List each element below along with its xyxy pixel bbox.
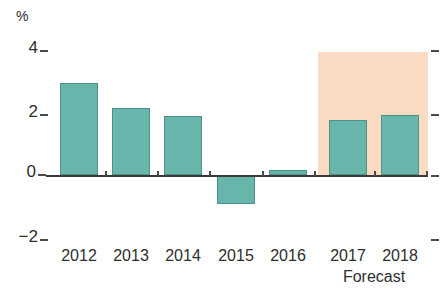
x-axis-label-2013: 2013 — [108, 247, 154, 265]
x-axis-label-2015: 2015 — [213, 247, 259, 265]
y-axis-tick-minus2 — [40, 239, 48, 241]
y-axis-label-0: 0 — [18, 162, 36, 182]
y-axis-tick-2 — [40, 114, 48, 116]
bar-2012 — [60, 83, 98, 175]
x-axis-label-2014: 2014 — [160, 247, 206, 265]
x-axis-label-2016: 2016 — [265, 247, 311, 265]
y-axis-tick-right-2 — [431, 114, 439, 116]
bar-2017 — [329, 120, 367, 175]
y-axis-tick-0 — [38, 174, 46, 176]
bar-2014 — [164, 116, 202, 175]
x-axis-tick — [262, 171, 264, 176]
x-axis-tick — [209, 171, 211, 176]
x-axis-tick — [314, 171, 316, 176]
x-axis-label-2018: 2018 — [377, 247, 423, 265]
y-axis-unit-label: % — [16, 8, 28, 24]
y-axis-tick-right-0 — [431, 175, 439, 177]
plot-area: % 4 2 0 −2 2012 2013 2014 2015 2016 2017… — [0, 0, 442, 289]
bar-2015 — [217, 175, 255, 204]
y-axis-label-4: 4 — [20, 38, 38, 58]
forecast-caption: Forecast — [333, 268, 415, 286]
x-axis-label-2012: 2012 — [56, 247, 102, 265]
x-axis-tick — [105, 171, 107, 176]
y-axis-label-minus2: −2 — [12, 227, 38, 247]
y-axis-label-2: 2 — [20, 102, 38, 122]
x-axis-tick — [374, 171, 376, 176]
y-axis-tick-right-minus2 — [431, 239, 439, 241]
x-axis-label-2017: 2017 — [325, 247, 371, 265]
x-axis-tick — [426, 171, 428, 176]
bar-2013 — [112, 108, 150, 175]
bar-2018 — [381, 115, 419, 175]
y-axis-tick-right-4 — [431, 50, 439, 52]
zero-axis-line — [46, 175, 428, 177]
x-axis-tick — [157, 171, 159, 176]
bar-chart: % 4 2 0 −2 2012 2013 2014 2015 2016 2017… — [0, 0, 442, 289]
y-axis-tick-4 — [40, 50, 48, 52]
